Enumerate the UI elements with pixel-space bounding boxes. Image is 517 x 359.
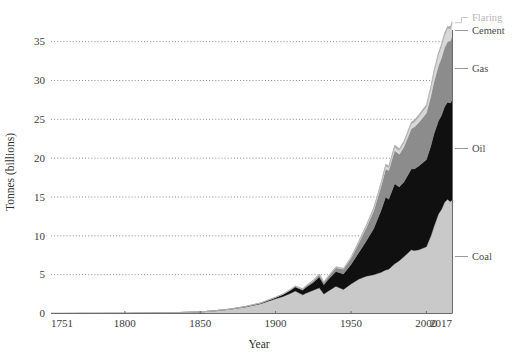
x-tick-label-2017: 2017: [430, 317, 453, 329]
y-tick-label-10: 10: [34, 230, 46, 242]
legend-label-coal[interactable]: Coal: [472, 251, 492, 262]
chart-canvas: 05101520253035 1751180018501900195020002…: [0, 0, 517, 359]
y-tick-label-5: 5: [40, 268, 46, 280]
legend-label-gas[interactable]: Gas: [472, 63, 488, 74]
y-axis-title: Tonnes (billions): [4, 133, 17, 211]
x-tick-label-1950: 1950: [340, 317, 363, 329]
y-tick-label-35: 35: [34, 35, 46, 47]
legend-leader-flaring: [455, 18, 468, 23]
co2-emissions-by-fuel-chart: 05101520253035 1751180018501900195020002…: [0, 0, 517, 359]
y-tick-label-30: 30: [34, 74, 46, 86]
x-axis-tick-labels: 1751180018501900195020002017: [51, 317, 453, 329]
series-legend: FlaringCementGasOilCoal: [455, 12, 505, 262]
x-axis-title: Year: [248, 338, 269, 350]
legend-label-cement[interactable]: Cement: [472, 25, 505, 36]
y-tick-label-25: 25: [34, 113, 46, 125]
legend-label-oil[interactable]: Oil: [472, 143, 486, 154]
x-tick-label-1800: 1800: [114, 317, 137, 329]
x-tick-label-1900: 1900: [265, 317, 288, 329]
x-tick-label-1751: 1751: [51, 317, 73, 329]
y-axis-tick-labels: 05101520253035: [34, 35, 46, 319]
y-tick-label-20: 20: [34, 152, 46, 164]
legend-label-flaring[interactable]: Flaring: [472, 12, 503, 23]
stacked-area-series: [51, 22, 452, 314]
y-tick-label-15: 15: [34, 191, 46, 203]
y-tick-label-0: 0: [40, 307, 46, 319]
x-tick-label-1850: 1850: [189, 317, 212, 329]
